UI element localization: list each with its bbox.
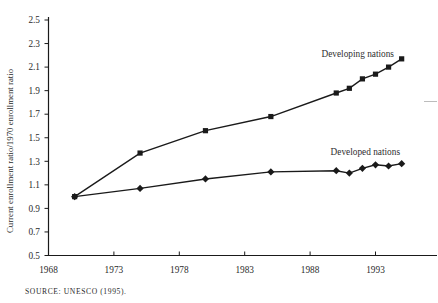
y-tick-label: 2.3 [28,39,40,49]
y-tick-label: 0.9 [28,204,40,214]
y-tick-label: 1.9 [28,86,40,96]
source-note: SOURCE: UNESCO (1995). [25,287,127,296]
developed-nations-line [75,164,402,197]
data-point-marker-diamond [333,167,340,174]
series-label: Developed nations [331,147,401,157]
enrollment-ratio-figure: 2.52.32.11.91.71.51.31.10.90.70.51968197… [0,0,438,303]
y-tick-label: 0.5 [28,251,40,261]
data-point-marker-diamond [136,185,143,192]
data-point-marker-square [399,56,404,61]
x-tick-label: 1993 [366,265,385,275]
data-point-marker-diamond [202,175,209,182]
data-point-marker-diamond [372,161,379,168]
x-tick-label: 1983 [235,265,254,275]
data-point-marker-square [347,86,352,91]
series-label: Developing nations [321,49,394,59]
data-point-marker-square [360,76,365,81]
data-point-marker-diamond [385,162,392,169]
y-tick-label: 1.3 [28,157,40,167]
x-tick-label: 1973 [105,265,124,275]
data-point-marker-square [268,114,273,119]
y-axis-title: Current enrollment ratio/1970 enrollment… [5,68,15,233]
data-point-marker-diamond [398,160,405,167]
data-point-marker-square [203,128,208,133]
data-point-marker-square [137,150,142,155]
y-tick-label: 2.5 [28,15,40,25]
y-tick-label: 1.5 [28,133,40,143]
y-tick-label: 1.1 [28,180,40,190]
y-tick-label: 1.7 [28,109,40,119]
x-tick-label: 1988 [301,265,320,275]
data-point-marker-square [334,90,339,95]
data-point-marker-diamond [267,168,274,175]
data-point-marker-diamond [359,165,366,172]
x-tick-label: 1968 [39,265,58,275]
y-tick-label: 0.7 [28,227,40,237]
data-point-marker-square [386,65,391,70]
data-point-marker-square [373,72,378,77]
print-artifact-dash [424,101,437,102]
data-point-marker-diamond [346,169,353,176]
x-tick-label: 1978 [170,265,189,275]
enrollment-line-chart: 2.52.32.11.91.71.51.31.10.90.70.51968197… [0,0,438,303]
y-tick-label: 2.1 [28,62,40,72]
